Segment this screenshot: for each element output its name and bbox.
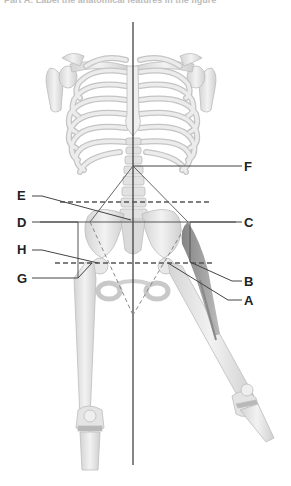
label-C: C — [244, 216, 253, 229]
label-A: A — [244, 294, 253, 307]
label-E: E — [17, 189, 26, 202]
label-G: G — [17, 272, 27, 285]
lower-limbs — [74, 258, 274, 470]
label-F: F — [244, 160, 252, 173]
label-D: D — [17, 216, 26, 229]
skeleton-diagram — [0, 0, 291, 486]
label-H: H — [17, 243, 26, 256]
label-B: B — [244, 275, 253, 288]
